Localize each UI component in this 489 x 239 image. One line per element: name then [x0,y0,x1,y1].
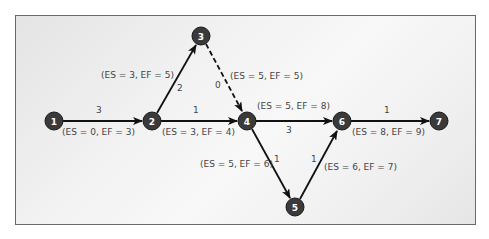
edge-duration: 3 [96,105,102,115]
node-label: 7 [436,117,442,127]
edge-duration: 1 [193,105,199,115]
edge-times: (ES = 6, EF = 7) [324,162,397,172]
node-6: 6 [333,112,351,130]
edge-duration: 2 [177,83,183,93]
edge-2-3: 2 (ES = 3, EF = 5) [101,45,196,113]
edge-duration: 0 [215,80,221,90]
edge-duration: 1 [384,105,390,115]
edge-duration: 3 [286,125,292,135]
edge-4-6: 3 (ES = 5, EF = 8) [256,101,332,135]
edge-times: (ES = 0, EF = 3) [62,127,135,137]
node-3: 3 [192,27,210,45]
node-label: 6 [339,117,345,127]
edge-times: (ES = 5, EF = 8) [257,101,330,111]
edge-1-2: 3 (ES = 0, EF = 3) [62,105,142,137]
node-2: 2 [143,112,161,130]
node-label: 4 [244,117,250,127]
node-7: 7 [430,112,448,130]
edge-2-4: 1 (ES = 3, EF = 4) [161,105,237,137]
edge-4-5: 1 (ES = 5, EF = 6) [200,129,290,198]
edge-times: (ES = 8, EF = 9) [352,127,425,137]
edge-times: (ES = 5, EF = 6) [200,159,273,169]
edge-6-7: 1 (ES = 8, EF = 9) [351,105,429,137]
network-diagram: 3 (ES = 0, EF = 3) 2 (ES = 3, EF = 5) 1 … [0,0,489,239]
edge-times: (ES = 3, EF = 4) [162,127,235,137]
node-label: 3 [198,32,204,42]
node-label: 2 [149,117,155,127]
node-1: 1 [45,112,63,130]
edge-times: (ES = 5, EF = 5) [230,71,303,81]
node-label: 1 [51,117,57,127]
node-label: 5 [292,203,298,213]
edge-duration: 1 [311,154,317,164]
node-5: 5 [286,198,304,216]
edge-times: (ES = 3, EF = 5) [101,70,174,80]
edge-duration: 1 [274,154,280,164]
edge-5-6: 1 (ES = 6, EF = 7) [300,131,397,199]
node-4: 4 [238,112,256,130]
